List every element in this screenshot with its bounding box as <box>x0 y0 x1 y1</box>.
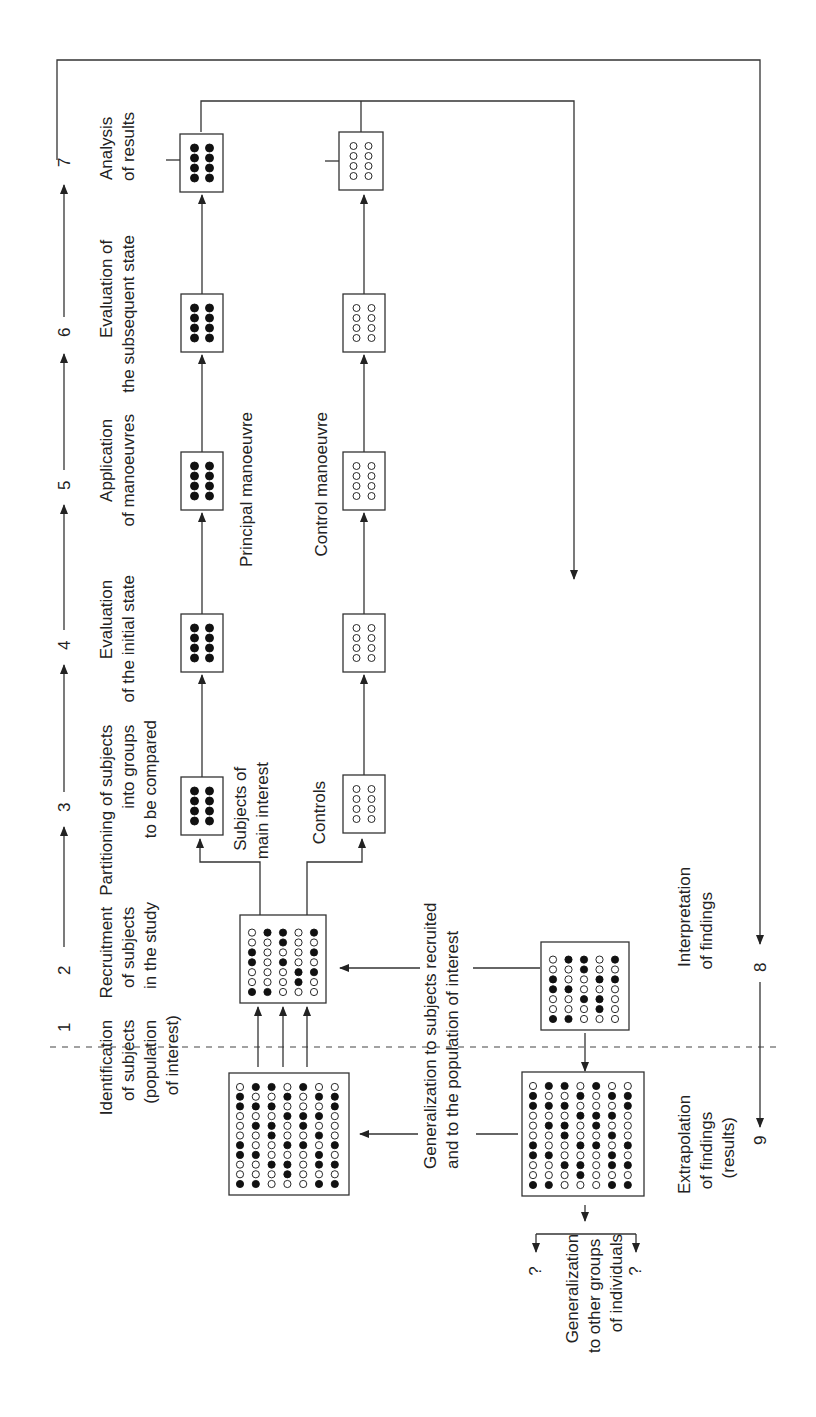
filled-dot <box>315 1093 322 1100</box>
filled-dot <box>315 1151 322 1158</box>
filled-dot <box>529 1142 536 1149</box>
open-dot <box>248 939 255 946</box>
step-label-1: Identification of subjects (population o… <box>97 1015 182 1115</box>
filled-dot <box>596 996 603 1003</box>
open-dot <box>284 1083 291 1090</box>
filled-dot <box>593 1122 600 1129</box>
open-dot <box>300 1180 307 1187</box>
open-dot <box>596 986 603 993</box>
filled-dot <box>580 956 587 963</box>
filled-dot <box>549 1015 556 1022</box>
filled-dot <box>191 144 199 152</box>
filled-dot <box>608 1132 615 1139</box>
open-dot <box>300 1103 307 1110</box>
open-dot <box>353 473 360 480</box>
filled-dot <box>549 986 556 993</box>
open-dot <box>580 1015 587 1022</box>
open-dot <box>236 1161 243 1168</box>
filled-dot <box>593 1142 600 1149</box>
step-label-7: Analysis of results <box>97 112 138 181</box>
filled-dot <box>268 1083 275 1090</box>
filled-dot <box>310 929 317 936</box>
filled-dot <box>331 1161 338 1168</box>
open-dot <box>331 1113 338 1120</box>
open-dot <box>331 1151 338 1158</box>
filled-dot <box>206 324 214 332</box>
filled-dot <box>624 1102 631 1109</box>
open-dot <box>593 1152 600 1159</box>
open-dot <box>624 1172 631 1179</box>
control-row <box>339 132 385 833</box>
step-labels: Identification of subjects (population o… <box>97 112 182 1115</box>
filled-dot <box>295 969 302 976</box>
open-dot <box>268 1180 275 1187</box>
filled-dot <box>206 472 214 480</box>
open-dot <box>350 153 357 160</box>
open-dot <box>577 1152 584 1159</box>
outer-feedback-arrow <box>57 60 760 944</box>
open-dot <box>315 1083 322 1090</box>
filled-dot <box>284 1113 291 1120</box>
open-dot <box>315 1122 322 1129</box>
filled-dot <box>206 817 214 825</box>
filled-dot <box>331 1103 338 1110</box>
open-dot <box>549 956 556 963</box>
open-dot <box>368 796 375 803</box>
open-dot <box>596 956 603 963</box>
open-dot <box>264 969 271 976</box>
open-dot <box>331 1132 338 1139</box>
open-dot <box>529 1162 536 1169</box>
filled-dot <box>252 1103 259 1110</box>
filled-dot <box>608 1162 615 1169</box>
open-dot <box>545 1142 552 1149</box>
filled-dot <box>236 1180 243 1187</box>
step-label-5: Application of manoeuvres <box>97 414 138 526</box>
principal-row <box>180 134 223 835</box>
filled-dot <box>236 1103 243 1110</box>
unknown-marker-1: ? <box>526 1266 545 1275</box>
filled-dot <box>577 1172 584 1179</box>
open-dot <box>268 1113 275 1120</box>
filled-dot <box>191 807 199 815</box>
filled-dot <box>593 1082 600 1089</box>
open-dot <box>279 979 286 986</box>
open-dot <box>561 1092 568 1099</box>
open-dot <box>611 1015 618 1022</box>
open-dot <box>353 325 360 332</box>
open-dot <box>368 325 375 332</box>
filled-dot <box>191 314 199 322</box>
open-dot <box>236 1171 243 1178</box>
filled-dot <box>191 164 199 172</box>
filled-dot <box>561 1122 568 1129</box>
filled-dot <box>624 1142 631 1149</box>
subjects-box-step7 <box>180 134 223 192</box>
filled-dot <box>191 624 199 632</box>
filled-dot <box>206 654 214 662</box>
open-dot <box>608 1102 615 1109</box>
filled-dot <box>279 939 286 946</box>
step-axis: 1 2 3 4 5 6 7 <box>55 158 74 1032</box>
open-dot <box>236 1113 243 1120</box>
open-dot <box>365 163 372 170</box>
open-dot <box>549 1006 556 1013</box>
open-dot <box>284 1122 291 1129</box>
filled-dot <box>191 304 199 312</box>
step-label-3: Partitioning of subjects into groups to … <box>97 720 160 896</box>
open-dot <box>350 163 357 170</box>
filled-dot <box>284 1142 291 1149</box>
filled-dot <box>315 1161 322 1168</box>
filled-dot <box>565 1015 572 1022</box>
open-dot <box>284 1151 291 1158</box>
filled-dot <box>545 1082 552 1089</box>
filled-dot <box>268 1161 275 1168</box>
filled-dot <box>248 949 255 956</box>
filled-dot <box>279 929 286 936</box>
open-dot <box>300 1171 307 1178</box>
open-dot <box>353 655 360 662</box>
control-manoeuvre-label: Control manoeuvre <box>312 412 331 557</box>
filled-dot <box>580 996 587 1003</box>
open-dot <box>350 143 357 150</box>
filled-dot <box>611 956 618 963</box>
open-dot <box>561 1112 568 1119</box>
open-dot <box>279 949 286 956</box>
